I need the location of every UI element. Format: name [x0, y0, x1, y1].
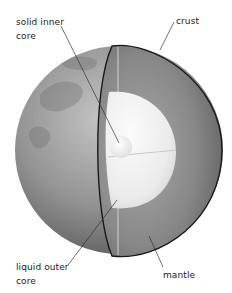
label-mantle: mantle — [163, 268, 195, 282]
label-liquid-outer-core: liquid outer core — [16, 260, 69, 288]
label-solid-inner-core: solid inner core — [16, 15, 64, 43]
earth-globe-illustration — [0, 0, 232, 293]
earth-cutaway-diagram: solid inner core crust liquid outer core… — [0, 0, 232, 293]
inner-core — [110, 136, 132, 158]
leader-line-crust — [160, 22, 174, 50]
label-crust: crust — [176, 14, 199, 28]
